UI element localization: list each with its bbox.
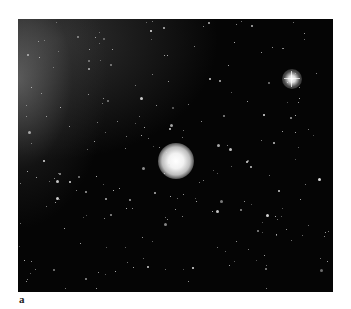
star-dot [165, 217, 166, 218]
star-dot [277, 219, 278, 220]
star-dot [196, 201, 197, 202]
star-dot [290, 117, 292, 119]
star-dot [43, 160, 45, 162]
star-dot [85, 278, 87, 280]
star-dot [203, 180, 204, 181]
star-dot [26, 116, 27, 117]
star-dot [147, 266, 149, 268]
star-dot [305, 184, 306, 185]
star-dot [31, 261, 32, 262]
star-dot [97, 122, 98, 123]
star-dot [98, 272, 99, 273]
star-dot [287, 82, 288, 83]
star-dot [135, 123, 136, 124]
star-dot [293, 22, 294, 23]
star-dot [264, 255, 265, 256]
star-dot [56, 22, 57, 23]
star-dot [282, 208, 283, 209]
star-dot [85, 191, 87, 193]
star-dot [54, 178, 55, 179]
star-dot [308, 129, 309, 130]
star-dot [113, 190, 114, 191]
star-dot [227, 145, 228, 146]
star-dot [261, 52, 262, 53]
star-dot [276, 235, 277, 236]
star-dot [100, 60, 101, 61]
star-dot [272, 47, 273, 48]
star-dot [212, 211, 213, 212]
star-dot [56, 197, 59, 200]
star-dot [328, 231, 329, 232]
star-dot [165, 269, 166, 270]
star-dot [167, 219, 168, 220]
star-dot [295, 159, 296, 160]
star-dot [87, 149, 88, 150]
star-dot [256, 260, 257, 261]
star-dot [266, 288, 267, 289]
star-dot [26, 281, 27, 282]
star-dot [313, 135, 314, 136]
star-dot [103, 38, 105, 40]
star-dot [268, 82, 270, 84]
star-dot [103, 184, 104, 185]
star-dot [273, 142, 275, 144]
star-dot [192, 267, 194, 269]
star-dot [125, 148, 126, 149]
star-dot [38, 41, 39, 42]
star-dot [257, 230, 259, 232]
star-dot [95, 37, 96, 38]
star-dot [69, 126, 70, 127]
star-dot [188, 104, 189, 105]
star-dot [39, 57, 40, 58]
star-dot [36, 177, 37, 178]
star-dot [251, 25, 253, 27]
star-dot [152, 21, 153, 22]
star-dot [231, 166, 232, 167]
star-dot [308, 225, 309, 226]
star-dot [216, 210, 219, 213]
star-dot [46, 206, 47, 207]
star-dot [53, 67, 54, 68]
star-dot [234, 42, 235, 43]
star-dot [194, 46, 195, 47]
star-dot [46, 116, 47, 117]
star-dot [183, 269, 184, 270]
star-dot [168, 81, 169, 82]
star-dot [275, 216, 276, 217]
star-dot [127, 262, 128, 263]
star-dot [69, 181, 71, 183]
star-dot [105, 198, 107, 200]
star-dot [183, 194, 184, 195]
star-dot [223, 115, 225, 117]
star-dot [199, 182, 200, 183]
star-dot [236, 24, 237, 25]
star-dot [316, 73, 317, 74]
star-dot [251, 204, 252, 205]
star-dot [217, 173, 218, 174]
star-dot [166, 152, 167, 153]
star-dot [88, 60, 90, 62]
star-dot [28, 131, 31, 134]
star-dot [164, 55, 165, 56]
star-dot [99, 32, 100, 33]
star-dot [236, 241, 237, 242]
star-dot [150, 30, 152, 32]
star-dot [265, 268, 267, 270]
star-dot [125, 247, 126, 248]
star-dot [188, 281, 189, 282]
star-dot [325, 232, 326, 233]
star-dot [27, 54, 29, 56]
star-dot [117, 121, 118, 122]
star-dot [219, 80, 221, 82]
star-dot [58, 51, 59, 52]
star-spike-horizontal [284, 78, 300, 79]
star-dot [112, 49, 113, 50]
star-dot [115, 271, 116, 272]
star-dot [298, 147, 299, 148]
star-dot [228, 65, 229, 66]
star-dot [299, 87, 300, 88]
star-dot [213, 170, 214, 171]
star-dot [126, 208, 127, 209]
star-dot [183, 130, 184, 131]
star-dot [105, 274, 106, 275]
